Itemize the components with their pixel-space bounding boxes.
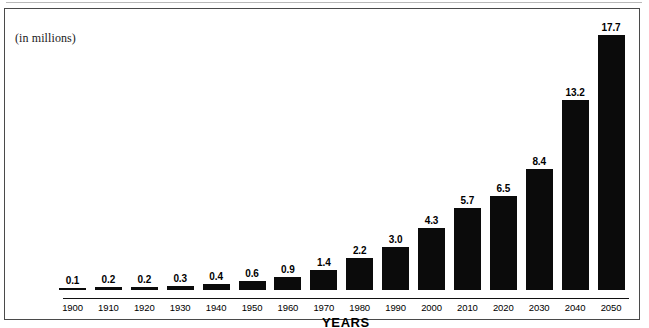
bar-rect [274,277,301,290]
tick-label-2050: 2050 [591,302,631,313]
bar-rect [239,281,266,290]
bar-value-label: 1.4 [317,257,331,268]
bar-1910: 0.2 [95,287,122,290]
bar-value-label: 0.1 [66,275,80,286]
bar-2030: 8.4 [526,169,553,290]
bar-1940: 0.4 [203,284,230,290]
bar-rect [131,287,158,290]
bar-1900: 0.1 [59,288,86,290]
bar-2010: 5.7 [454,208,481,290]
bar-1920: 0.2 [131,287,158,290]
bar-rect [167,286,194,290]
bar-1960: 0.9 [274,277,301,290]
bar-2050: 17.7 [598,35,625,290]
tick-label-1910: 1910 [88,302,128,313]
bar-value-label: 0.2 [102,274,116,285]
bar-rect [526,169,553,290]
bar-1950: 0.6 [239,281,266,290]
bar-value-label: 3.0 [389,234,403,245]
bar-rect [346,258,373,290]
bar-rect [382,247,409,290]
figure-frame: (in millions) 0.10.20.20.30.40.60.91.42.… [4,8,640,320]
bar-rect [59,288,86,290]
bar-value-label: 0.3 [173,273,187,284]
bar-value-label: 5.7 [461,195,475,206]
bar-2020: 6.5 [490,196,517,290]
bar-value-label: 13.2 [566,87,585,98]
tick-label-1950: 1950 [232,302,272,313]
tick-label-1980: 1980 [340,302,380,313]
bar-1990: 3.0 [382,247,409,290]
bar-value-label: 0.6 [245,268,259,279]
scan-artifact-line [0,0,649,3]
bar-value-label: 2.2 [353,245,367,256]
bar-rect [203,284,230,290]
tick-label-2020: 2020 [483,302,523,313]
x-axis-title: YEARS [63,315,629,328]
bar-2040: 13.2 [562,100,589,290]
tick-label-2010: 2010 [447,302,487,313]
bar-rect [418,228,445,290]
tick-label-2030: 2030 [519,302,559,313]
bar-1930: 0.3 [167,286,194,290]
bar-rect [562,100,589,290]
bar-value-label: 0.2 [137,274,151,285]
bar-value-label: 4.3 [425,215,439,226]
tick-label-2000: 2000 [412,302,452,313]
tick-label-1990: 1990 [376,302,416,313]
bar-1980: 2.2 [346,258,373,290]
bar-value-label: 0.4 [209,271,223,282]
bar-2000: 4.3 [418,228,445,290]
tick-label-2040: 2040 [555,302,595,313]
tick-label-1930: 1930 [160,302,200,313]
bar-value-label: 8.4 [532,156,546,167]
bar-rect [598,35,625,290]
bar-rect [490,196,517,290]
tick-label-1940: 1940 [196,302,236,313]
tick-label-1970: 1970 [304,302,344,313]
bar-rect [454,208,481,290]
tick-label-1920: 1920 [124,302,164,313]
bar-rect [310,270,337,290]
bar-value-label: 6.5 [496,183,510,194]
bar-value-label: 17.7 [601,22,620,33]
bar-1970: 1.4 [310,270,337,290]
bar-value-label: 0.9 [281,264,295,275]
tick-label-1900: 1900 [53,302,93,313]
tick-label-1960: 1960 [268,302,308,313]
bar-rect [95,287,122,290]
